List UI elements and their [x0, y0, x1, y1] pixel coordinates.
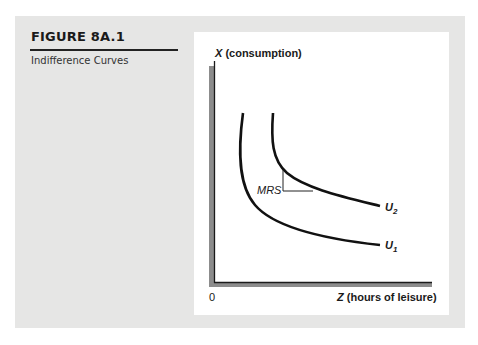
mrs-label: MRS: [257, 184, 282, 196]
x-axis-shadow: [209, 283, 432, 287]
u1-label: U1: [385, 239, 398, 254]
y-axis-shadow: [209, 66, 214, 286]
origin-label: 0: [209, 291, 215, 303]
y-axis-label: X (consumption): [214, 47, 302, 59]
u2-label: U2: [385, 201, 398, 216]
curve-u2: [272, 113, 380, 206]
indifference-chart: X (consumption) Z (hours of leisure) 0 M…: [0, 0, 478, 345]
curve-u1: [240, 113, 380, 245]
x-axis-label: Z (hours of leisure): [336, 291, 437, 303]
